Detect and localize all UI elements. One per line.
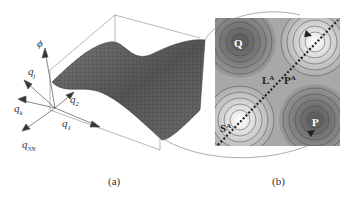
phi-axis-label: ϕ — [37, 37, 43, 49]
q2-axis-label: q2 — [70, 93, 80, 108]
qj-axis-label: qj — [28, 65, 36, 80]
panel-a-surface-plot: ϕ qj qk q3N q1 q2 (a) — [14, 15, 205, 188]
qk-axis-label: qk — [14, 102, 24, 117]
q3n-axis-label: q3N — [22, 138, 36, 153]
point-q-label: Q — [234, 37, 243, 49]
point-p-label: P — [312, 116, 319, 128]
caption-b: (b) — [272, 175, 285, 188]
peak-top-right — [279, 6, 351, 78]
caption-a: (a) — [108, 175, 121, 188]
q1-axis-label: q1 — [62, 117, 71, 132]
potential-energy-figure: ϕ qj qk q3N q1 q2 (a) — [0, 0, 355, 200]
